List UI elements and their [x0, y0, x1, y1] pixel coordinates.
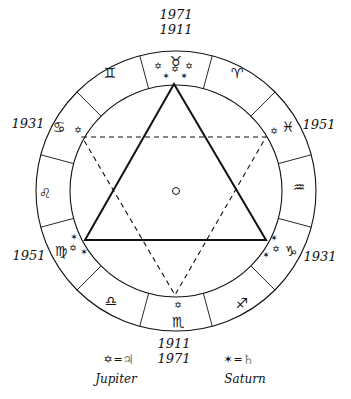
- jupiter-mark-icon: ✡: [185, 61, 193, 71]
- saturn-mark-icon: ✶: [270, 233, 278, 243]
- aquarius-icon: ♒: [293, 179, 306, 195]
- solid-triangle: [85, 84, 266, 240]
- jupiter-mark-icon: ✡: [69, 243, 77, 253]
- year-right-upper: 1951: [302, 117, 335, 132]
- jupiter-mark-icon: ✡: [270, 126, 278, 136]
- jupiter-glyph-icon: ♃: [122, 352, 134, 367]
- sagittarius-icon: ♐: [236, 295, 249, 311]
- pisces-icon: ♓: [282, 119, 295, 135]
- saturn-mark-icon: ✶: [262, 250, 270, 260]
- year-bottom-1: 1911: [157, 336, 190, 351]
- astrological-chart: ♉ ♈ ♓ ♒ ♑ ♐ ♏ ♎ ♍ ♌ ♋ ♊ ✡ ✡ ✡ ✶ ✶ ✡ ✡ ✶ …: [0, 0, 351, 399]
- gemini-icon: ♊: [104, 65, 117, 81]
- saturn-label: Saturn: [224, 372, 265, 386]
- aries-icon: ♈: [231, 65, 244, 81]
- year-top-1: 1971: [159, 7, 192, 22]
- saturn-mark-icon: ✶: [180, 71, 188, 81]
- dashed-triangle: [82, 137, 266, 295]
- leo-icon: ♌: [39, 185, 52, 201]
- virgo-icon: ♍: [55, 243, 68, 259]
- saturn-mark-icon: ✶: [80, 247, 88, 257]
- year-left-upper: 1931: [11, 116, 44, 131]
- jupiter-legend-symbol-icon: ✡: [103, 353, 112, 366]
- saturn-legend-symbol-icon: ✶: [223, 353, 232, 366]
- year-right-lower: 1931: [303, 249, 336, 264]
- jupiter-label: Jupiter: [92, 372, 138, 386]
- scorpio-icon: ♏: [172, 314, 185, 330]
- year-top-2: 1911: [159, 22, 192, 37]
- saturn-glyph-icon: ♄: [242, 352, 254, 367]
- legend-saturn: ✶ = ♄ Saturn: [223, 352, 265, 386]
- jupiter-mark-icon: ✡: [174, 300, 182, 310]
- saturn-mark-icon: ✶: [70, 232, 78, 242]
- libra-icon: ♎: [105, 293, 118, 309]
- jupiter-mark-icon: ✡: [154, 61, 162, 71]
- jupiter-mark-icon: ✡: [74, 125, 82, 135]
- year-left-lower: 1951: [12, 248, 45, 263]
- cancer-icon: ♋: [53, 119, 66, 135]
- legend-jupiter: ✡ = ♃ Jupiter: [92, 352, 138, 386]
- jupiter-mark-icon: ✡: [171, 64, 179, 74]
- sun-circle-icon: [173, 188, 180, 195]
- jupiter-mark-icon: ✡: [272, 244, 280, 254]
- saturn-mark-icon: ✶: [162, 71, 170, 81]
- planets-taurus: ✡ ✡ ✡ ✶ ✶: [154, 61, 193, 81]
- capricorn-icon: ♑: [285, 243, 298, 259]
- sector-dividers: [41, 56, 311, 326]
- inner-circle: [70, 85, 282, 297]
- year-bottom-2: 1971: [157, 351, 190, 366]
